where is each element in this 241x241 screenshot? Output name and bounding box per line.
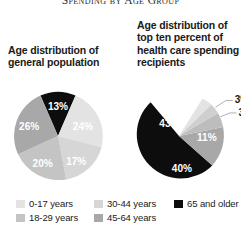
- legend-item-65-and-older: 65 and older: [174, 198, 234, 209]
- pie-slice-label-45-64-years: 40%: [172, 163, 192, 174]
- legend-swatch-icon: [94, 214, 103, 222]
- legend-swatch-icon: [16, 214, 25, 222]
- chart-heading-top-ten-percent: Age distribution of top ten percent of h…: [137, 19, 241, 69]
- legend-swatch-icon: [16, 200, 25, 208]
- legend-label: 45-64 years: [107, 212, 156, 223]
- chart-heading-general-population: Age distribution of general population: [8, 44, 116, 69]
- leader-line-3-percent-lower: [220, 113, 236, 117]
- legend-label: 65 and older: [187, 198, 239, 209]
- legend-swatch-icon: [174, 200, 183, 208]
- legend-row: 18-29 years 45-64 years: [16, 212, 234, 226]
- page-title: Spending by Age Group: [0, 0, 241, 6]
- pie-slice-label-30-44-years: 17%: [66, 156, 86, 167]
- pie-slice-label-30-44-years: 11%: [197, 132, 217, 143]
- pie-slice-label-45-64-years: 26%: [19, 121, 39, 132]
- legend-label: 0-17 years: [29, 198, 73, 209]
- legend-label: 30-44 years: [107, 198, 156, 209]
- legend-label: 18-29 years: [29, 212, 78, 223]
- legend-item-0-17-years: 0-17 years: [16, 198, 94, 209]
- legend-item-45-64-years: 45-64 years: [94, 212, 174, 223]
- legend-swatch-icon: [94, 200, 103, 208]
- pie-chart-general-population: 13% 24% 17% 20% 26%: [10, 88, 106, 184]
- pie-slice-label-65-and-older: 43%: [159, 118, 179, 129]
- legend-item-18-29-years: 18-29 years: [16, 212, 94, 223]
- legend-item-30-44-years: 30-44 years: [94, 198, 174, 209]
- pie-slice-label-65-and-older: 13%: [48, 101, 68, 112]
- leader-line-3-percent-upper: [215, 100, 232, 107]
- pie-slice-label-0-17-years: 24%: [73, 121, 93, 132]
- pie-slice-label-18-29-years: 20%: [33, 158, 53, 169]
- pie-chart-top-ten-percent: 43% 3% 3% 11% 40%: [131, 88, 227, 184]
- pie-slice-label-18-29-years: 3%: [239, 107, 241, 118]
- pie-slice-label-0-17-years: 3%: [235, 94, 241, 105]
- legend: 0-17 years 30-44 years 65 and older 18-2…: [16, 198, 234, 226]
- legend-row: 0-17 years 30-44 years 65 and older: [16, 198, 234, 212]
